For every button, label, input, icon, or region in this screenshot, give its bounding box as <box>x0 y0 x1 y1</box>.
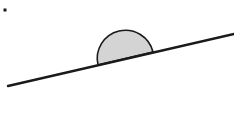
marker-dot <box>4 9 7 12</box>
incline-hemisphere-diagram <box>0 0 234 120</box>
